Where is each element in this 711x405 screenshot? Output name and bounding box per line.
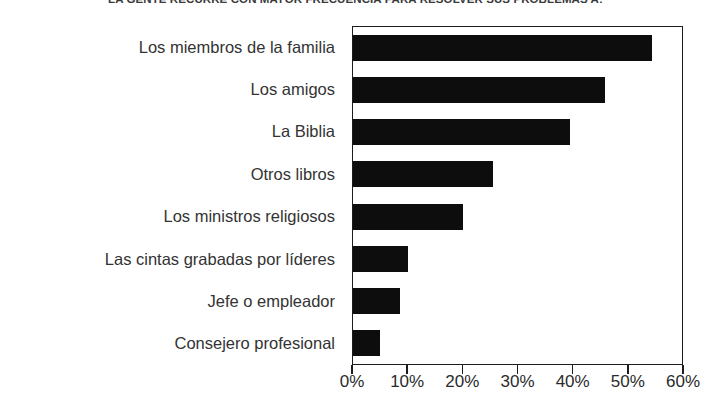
category-label: Otros libros	[0, 153, 344, 195]
bar-slot	[353, 27, 682, 69]
plot-area	[352, 26, 683, 365]
category-label: Los ministros religiosos	[0, 196, 344, 238]
bar	[353, 246, 408, 272]
category-label: Los amigos	[0, 68, 344, 110]
bar-chart-figure: LA GENTE RECURRE CON MAYOR FRECUENCIA PA…	[0, 0, 711, 405]
tick-label: 50%	[611, 372, 645, 392]
bar-slot	[353, 69, 682, 111]
bar-slot	[353, 196, 682, 238]
category-label: La Biblia	[0, 111, 344, 153]
chart-title: LA GENTE RECURRE CON MAYOR FRECUENCIA PA…	[0, 0, 711, 5]
tick-label: 30%	[500, 372, 534, 392]
bar	[353, 288, 400, 314]
x-axis-tick-labels: 0%10%20%30%40%50%60%	[352, 372, 683, 398]
bar-slot	[353, 111, 682, 153]
category-label: Jefe o empleador	[0, 280, 344, 322]
bars-layer	[353, 27, 682, 364]
category-label: Las cintas grabadas por líderes	[0, 238, 344, 280]
bar-slot	[353, 153, 682, 195]
bar	[353, 35, 652, 61]
tick-label: 0%	[340, 372, 365, 392]
bar	[353, 77, 605, 103]
tick-label: 10%	[390, 372, 424, 392]
tick-label: 60%	[666, 372, 700, 392]
bar-slot	[353, 238, 682, 280]
tick-label: 40%	[556, 372, 590, 392]
bar-slot	[353, 322, 682, 364]
tick-label: 20%	[445, 372, 479, 392]
bar-slot	[353, 280, 682, 322]
category-axis-labels: Los miembros de la familiaLos amigosLa B…	[0, 26, 344, 365]
bar	[353, 161, 493, 187]
bar	[353, 119, 570, 145]
bar	[353, 204, 463, 230]
bar	[353, 330, 380, 356]
category-label: Los miembros de la familia	[0, 26, 344, 68]
category-label: Consejero profesional	[0, 323, 344, 365]
